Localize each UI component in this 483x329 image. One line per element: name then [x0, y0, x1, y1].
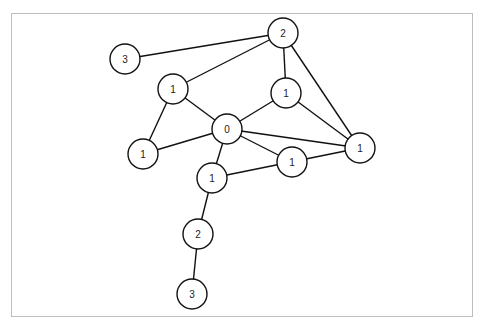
node-label: 1: [289, 157, 295, 168]
graph-node: 1: [277, 147, 307, 177]
node-label: 1: [357, 143, 363, 154]
node-label: 3: [189, 289, 195, 300]
node-label: 2: [280, 28, 286, 39]
graph-node: 1: [158, 74, 188, 104]
graph-node: 1: [271, 78, 301, 108]
node-label: 2: [195, 229, 201, 240]
graph-node: 0: [212, 114, 242, 144]
node-label: 3: [122, 54, 128, 65]
node-label: 1: [140, 149, 146, 160]
node-label: 1: [209, 173, 215, 184]
edges-layer: [125, 33, 360, 294]
node-label: 1: [283, 88, 289, 99]
graph-edge: [125, 33, 283, 59]
graph-canvas: 02311111123: [0, 0, 483, 329]
node-label: 0: [224, 124, 230, 135]
graph-node: 1: [128, 139, 158, 169]
graph-node: 1: [345, 133, 375, 163]
graph-node: 1: [197, 163, 227, 193]
graph-node: 2: [183, 219, 213, 249]
graph-node: 2: [268, 18, 298, 48]
nodes-layer: 02311111123: [110, 18, 375, 309]
graph-node: 3: [177, 279, 207, 309]
graph-node: 3: [110, 44, 140, 74]
node-label: 1: [170, 84, 176, 95]
